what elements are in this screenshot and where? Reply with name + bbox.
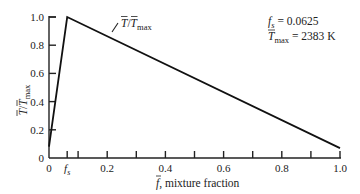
y-tick-label: 0.8 xyxy=(30,39,44,51)
x-tick-label: 1.0 xyxy=(333,162,347,174)
y-tick-label: 0.4 xyxy=(30,96,44,108)
y-tick-label: 1.0 xyxy=(30,11,44,23)
x-tick-label: 0.6 xyxy=(217,162,231,174)
svg-text:T/Tmax: T/Tmax xyxy=(17,84,32,115)
y-tick-label: 0.2 xyxy=(30,124,44,136)
x-tick-label: 0.2 xyxy=(100,162,114,174)
fs-annotation: fs = 0.0625 xyxy=(268,15,319,30)
curve-label-leader xyxy=(112,23,118,32)
y-tick-label: 0.6 xyxy=(30,67,44,79)
y-ticks: 00.20.40.60.81.0 xyxy=(30,11,56,164)
x-tick-label: fs xyxy=(64,162,70,177)
x-tick-label: 0.8 xyxy=(275,162,289,174)
x-tick-label: 0 xyxy=(46,162,52,174)
chart: 00.20.40.60.81.0 0fs0.20.40.60.81.0 T/Tm… xyxy=(0,0,360,194)
x-tick-label: 0.4 xyxy=(159,162,173,174)
x-ticks: 0fs0.20.40.60.81.0 xyxy=(46,151,347,177)
tmax-annotation: Tmax = 2383 K xyxy=(268,30,336,45)
y-axis-label: T/Tmax xyxy=(17,84,32,116)
y-tick-label: 0 xyxy=(39,152,45,164)
x-axis-label: f, mixture fraction xyxy=(156,177,240,190)
curve-label: T/Tmax xyxy=(121,17,152,32)
